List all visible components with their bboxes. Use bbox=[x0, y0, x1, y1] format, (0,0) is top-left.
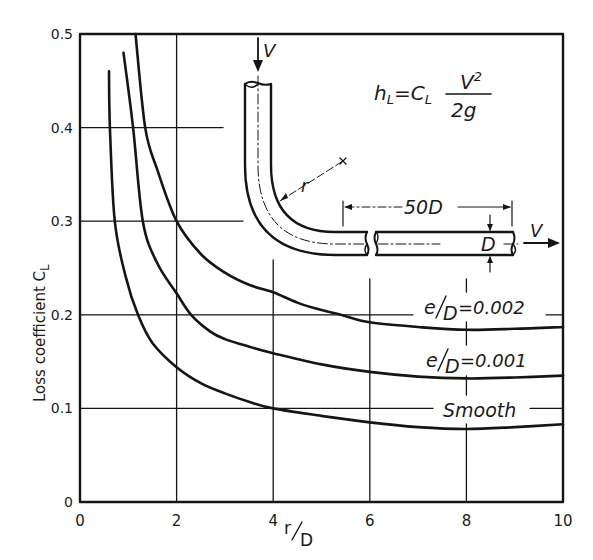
x-axis-label: r D bbox=[284, 518, 313, 550]
svg-text:hL=CL: hL=CL bbox=[374, 81, 432, 107]
arrow-up-icon bbox=[487, 256, 493, 263]
x-tick-label: 0 bbox=[75, 512, 85, 530]
y-tick-label: 0.1 bbox=[51, 400, 73, 416]
svg-text:r: r bbox=[284, 518, 291, 538]
svg-text:=0.002: =0.002 bbox=[458, 297, 525, 318]
x-tick-label: 8 bbox=[462, 512, 472, 530]
arrow-down-icon bbox=[487, 224, 493, 231]
svg-text:e: e bbox=[426, 349, 438, 371]
svg-text:2g: 2g bbox=[451, 98, 476, 122]
arrow-right-icon bbox=[503, 204, 511, 210]
y-axis-label: Loss coefficient CL bbox=[31, 264, 52, 402]
svg-text:D: D bbox=[481, 233, 496, 255]
arrow-down-icon bbox=[253, 60, 263, 72]
svg-text:D: D bbox=[445, 355, 460, 377]
series-label-smooth: Smooth bbox=[443, 399, 516, 421]
svg-text:r: r bbox=[301, 176, 309, 196]
y-tick-label: 0.4 bbox=[51, 120, 73, 136]
y-tick-label: 0.2 bbox=[51, 307, 73, 323]
svg-text:=0.001: =0.001 bbox=[460, 350, 527, 371]
x-tick-label: 4 bbox=[268, 512, 278, 530]
svg-text:V: V bbox=[263, 40, 277, 61]
y-tick-label: 0.5 bbox=[51, 26, 73, 42]
x-tick-label: 10 bbox=[553, 512, 572, 530]
x-tick-label: 6 bbox=[365, 512, 375, 530]
svg-text:V2: V2 bbox=[460, 69, 482, 94]
x-tick-label: 2 bbox=[172, 512, 182, 530]
series-label-e-d-0001: e D =0.001 bbox=[426, 349, 527, 377]
curve-e-d-0-002 bbox=[136, 34, 564, 330]
svg-text:V: V bbox=[530, 220, 544, 241]
svg-text:D: D bbox=[443, 302, 458, 324]
y-tick-label: 0 bbox=[64, 494, 73, 510]
y-tick-label: 0.3 bbox=[51, 213, 73, 229]
svg-text:50D: 50D bbox=[404, 196, 443, 218]
arrow-left-icon bbox=[344, 204, 352, 210]
head-loss-equation: hL=CL V2 2g bbox=[374, 69, 491, 122]
bend-loss-chart: 024681000.10.20.30.40.5 Loss coefficient… bbox=[0, 0, 593, 560]
series-label-e-d-0002: e D =0.002 bbox=[424, 296, 525, 324]
svg-text:e: e bbox=[424, 296, 436, 318]
pipe-bend-diagram: V D bbox=[245, 38, 560, 272]
arrow-right-icon bbox=[548, 238, 560, 248]
svg-text:D: D bbox=[300, 530, 313, 550]
arrow-tip-icon bbox=[280, 193, 288, 201]
